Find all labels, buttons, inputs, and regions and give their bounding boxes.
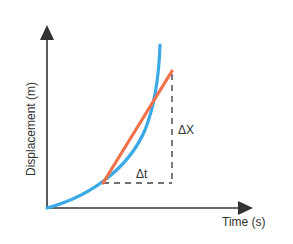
delta-t-label: Δt: [136, 167, 148, 181]
y-axis-label: Displacement (m): [24, 82, 38, 176]
displacement-time-diagram: Δt ΔX Time (s) Displacement (m): [0, 0, 293, 244]
delta-x-label: ΔX: [178, 123, 194, 137]
x-axis-arrow-icon: [238, 201, 253, 215]
y-axis-arrow-icon: [40, 25, 54, 40]
x-axis-label: Time (s): [222, 215, 266, 229]
